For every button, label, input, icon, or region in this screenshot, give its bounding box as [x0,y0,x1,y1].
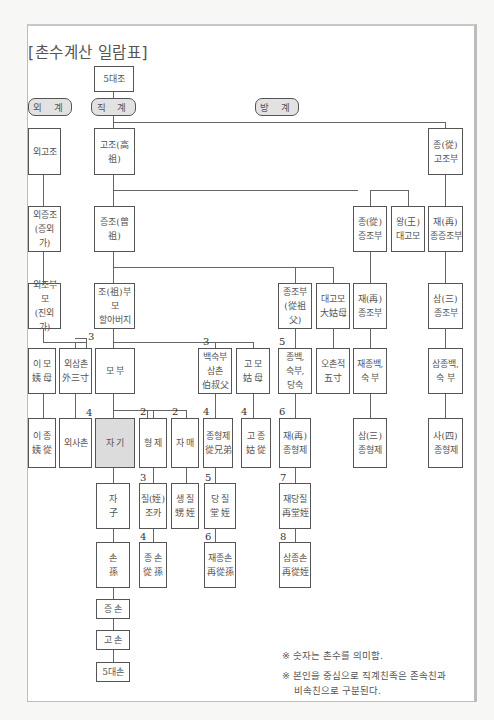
degree-label: 8 [280,531,286,542]
connector [153,467,154,484]
node-jae-grand-uncle: 재(再) 종조부 [353,283,387,329]
connector [186,410,187,418]
connector [113,618,114,630]
node-self: 자 기 [95,418,135,468]
node-sam-cousins: 삼(三) 종형제 [353,418,387,468]
node-maternal-grandparents: 외조부모 (진외가) [28,283,61,329]
connector [113,267,283,268]
node-great-great-grandfather: 고조(高祖) [94,128,135,175]
connector [113,528,114,542]
node-dang-nephew: 당 질 堂 姪 [204,483,236,529]
degree-label: 2 [172,406,178,417]
connector [113,190,358,191]
node-maternal-great-grandfather: 외증조 (증외가) [28,206,61,252]
node-jae-cousins: 재(再) 종형제 [279,418,311,468]
node-great-great-grandchildren: 고 손 [96,630,130,650]
degree-label: 4 [203,406,209,417]
connector [86,338,87,348]
node-jong-grandchildren: 종 손 從 孫 [139,542,167,588]
degree-label: 7 [280,472,286,483]
node-sam-grand-uncle: 삼(三) 종조부 [428,283,463,329]
node-jong-great-grand-uncle: 종(從) 증조부 [353,206,387,252]
connector [153,528,154,542]
node-5th-ancestor: 5대조 [94,66,134,92]
connector [113,328,114,348]
node-grandchildren: 손 孫 [96,542,130,588]
degree-label: 6 [279,406,285,417]
node-maternal-aunt-cousin: 이 종 姨 從 [28,418,56,468]
connector [333,328,334,348]
node-sam-jong-grandchildren: 삼종손 再從姪 [279,542,311,588]
connector [295,528,296,542]
connector [215,467,216,484]
degree-label: 3 [140,472,146,483]
connector [113,467,114,484]
degree-label: 3 [88,331,94,342]
connector [295,467,296,484]
node-parents: 모 부 [95,348,135,394]
node-great-grandchildren: 증 손 [96,599,130,619]
node-maternal-great-great-grandfather: 외고조 [28,128,61,175]
node-jong-grand-uncle: 종조부 (從祖父) [278,283,312,329]
connector [445,328,446,348]
connector [113,91,114,98]
degree-label: 3 [203,336,209,347]
node-maternal-cousin: 외사촌 [59,418,92,468]
degree-label: 4 [241,406,247,417]
connector [113,393,114,418]
node-maternal-aunt: 이 모 姨 母 [28,348,56,394]
connector [215,528,216,542]
degree-label: 2 [140,406,146,417]
node-sam-jong-uncles: 삼종백, 숙 부 [428,348,463,394]
node-jong-great-great-uncle: 종(從) 고조부 [428,128,463,175]
connector [113,122,445,123]
connector [153,410,154,418]
group-collateral-pill: 방 계 [255,98,299,116]
node-jae-dang-nephew: 재당질 再堂姪 [279,483,311,529]
connector [113,342,253,343]
connector [370,328,371,348]
degree-label: 6 [205,531,211,542]
connector [295,328,296,348]
connector [113,650,114,662]
connector [370,190,371,206]
node-grandparents: 조(祖)부모 할아버지 [94,283,135,329]
node-paternal-aunt: 고 모 姑 母 [236,348,270,394]
node-aunt-cousins: 고 종 姑 從 [241,418,271,468]
connector [43,393,44,418]
connector [113,587,114,599]
page-title: [촌수계산 일람표] [28,40,148,62]
degree-label: 4 [140,531,146,542]
degree-label: 5 [279,336,285,347]
connector [370,251,371,283]
connector [75,338,86,339]
connector [370,393,371,418]
degree-label: 5 [205,472,211,483]
node-maternal-uncle: 외삼촌 外三寸 [59,348,92,394]
connector [215,393,216,418]
connector [295,267,296,283]
connector [253,393,254,418]
node-cousins: 종형제 從兄弟 [203,418,233,468]
connector [295,393,296,418]
connector [333,267,334,283]
node-wang-great-aunt: 왕(王) 대고모 [391,206,425,252]
connector [43,342,86,343]
connector [370,190,408,191]
group-direct-pill: 직 계 [91,98,136,116]
degree-label: 4 [86,407,92,418]
node-sa-cousins: 사(四) 종형제 [428,418,463,468]
node-paternal-uncles: 백숙부 삼촌 伯叔父 [198,348,232,394]
node-fifth-degree: 오촌적 五寸 [316,348,350,394]
connector [75,393,76,418]
node-great-grandfather: 증조(曾祖) [94,206,135,252]
node-jae-great-grand-uncle: 재(再) 종증조부 [428,206,463,252]
node-jae-jong-uncles: 재종백, 숙 부 [353,348,387,394]
group-outer-pill: 외 계 [28,98,72,116]
connector [283,267,333,268]
connector [445,174,446,206]
node-5th-descendant: 5대손 [96,662,130,682]
node-brothers: 형 제 [139,418,167,468]
node-children: 자 子 [96,483,130,529]
node-sisters: 자 매 [171,418,199,468]
